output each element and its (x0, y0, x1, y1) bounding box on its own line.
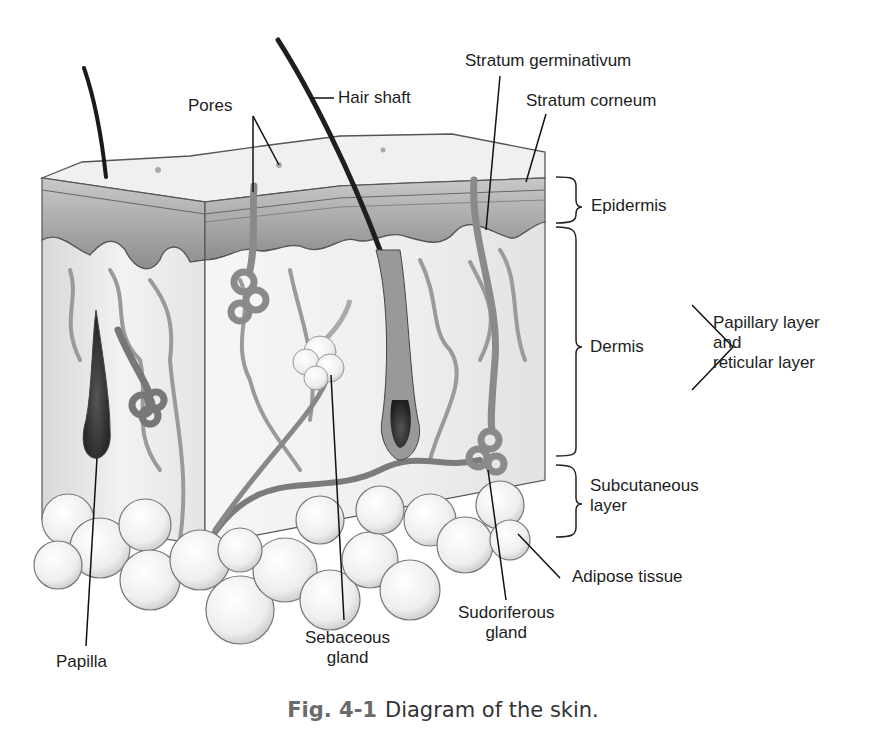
epidermis-brace (556, 177, 582, 223)
label-dermis: Dermis (590, 337, 644, 357)
label-papillary-layer: Papillary layer (713, 313, 820, 333)
label-subcutaneous-line2: layer (590, 496, 699, 516)
label-sudoriferous-gland: Sudoriferous gland (458, 603, 554, 643)
dermis-brace (556, 227, 582, 456)
subcutaneous-brace (556, 465, 582, 537)
label-pores: Pores (188, 96, 232, 116)
label-sebaceous-line1: Sebaceous (305, 628, 390, 648)
label-epidermis: Epidermis (591, 196, 667, 216)
label-adipose-tissue: Adipose tissue (572, 567, 683, 587)
label-sebaceous-gland: Sebaceous gland (305, 628, 390, 668)
label-sudoriferous-line1: Sudoriferous (458, 603, 554, 623)
label-dermis-sublayers: Papillary layer and reticular layer (713, 313, 820, 373)
label-and: and (713, 333, 820, 353)
label-papilla: Papilla (56, 652, 107, 672)
label-sudoriferous-line2: gland (458, 623, 554, 643)
figure-caption: Fig. 4-1Diagram of the skin. (0, 698, 886, 722)
braces (556, 177, 582, 537)
label-subcutaneous-layer: Subcutaneous layer (590, 476, 699, 516)
label-hair-shaft: Hair shaft (338, 88, 411, 108)
label-stratum-corneum: Stratum corneum (526, 91, 656, 111)
label-stratum-germinativum: Stratum germinativum (465, 51, 631, 71)
label-sebaceous-line2: gland (305, 648, 390, 668)
label-reticular-layer: reticular layer (713, 353, 820, 373)
figure-number: Fig. 4-1 (287, 698, 377, 722)
label-subcutaneous-line1: Subcutaneous (590, 476, 699, 496)
figure-caption-text: Diagram of the skin. (385, 698, 599, 722)
